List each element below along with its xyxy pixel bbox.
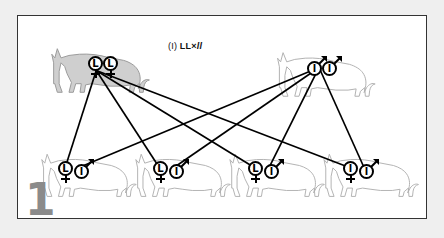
allele-letter: l — [322, 61, 337, 76]
parent-right-allele-2: l — [322, 61, 337, 76]
figure-title: (I) LL×ll — [168, 41, 202, 51]
offspring-2-allele-female: L — [153, 161, 168, 176]
offspring-4-allele-male: l — [359, 164, 374, 179]
female-symbol-bar-icon — [346, 178, 355, 180]
female-symbol-bar-icon — [61, 178, 70, 180]
allele-letter: l — [264, 164, 279, 179]
parent-left-allele-1: L — [88, 56, 103, 71]
allele-letter: l — [74, 164, 89, 179]
allele-letter: l — [343, 161, 358, 176]
allele-letter: L — [103, 56, 118, 71]
offspring-2-allele-male: l — [169, 164, 184, 179]
female-symbol-bar-icon — [156, 178, 165, 180]
title-recessive-genotype: ll — [197, 41, 202, 51]
allele-letter: l — [169, 164, 184, 179]
allele-letter: l — [307, 61, 322, 76]
offspring-3-allele-male: l — [264, 164, 279, 179]
title-dominant-genotype: LL — [180, 41, 191, 51]
offspring-4-allele-female: l — [343, 161, 358, 176]
allele-letter: L — [248, 161, 263, 176]
parent-right-allele-1: l — [307, 61, 322, 76]
plate-number: 1 — [25, 178, 56, 219]
female-symbol-bar-icon — [106, 73, 115, 75]
allele-letter: L — [153, 161, 168, 176]
allele-letter: L — [88, 56, 103, 71]
genetics-figure-panel: (I) LL×ll 1 L L l l L l — [17, 15, 427, 219]
allele-letter: L — [58, 161, 73, 176]
offspring-3-allele-female: L — [248, 161, 263, 176]
offspring-1-allele-female: L — [58, 161, 73, 176]
female-symbol-bar-icon — [91, 73, 100, 75]
female-symbol-bar-icon — [251, 178, 260, 180]
offspring-1-allele-male: l — [74, 164, 89, 179]
pedigree-lines-layer — [18, 16, 426, 218]
parent-left-allele-2: L — [103, 56, 118, 71]
title-prefix: (I) — [168, 41, 177, 51]
allele-letter: l — [359, 164, 374, 179]
